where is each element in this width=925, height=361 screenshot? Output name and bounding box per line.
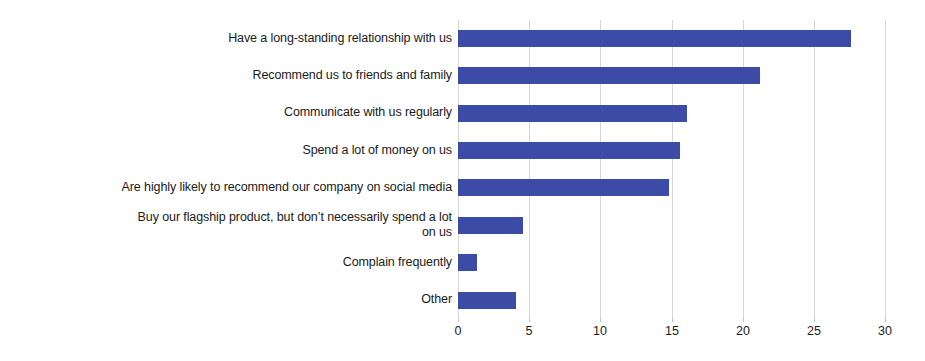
horizontal-bar-chart: Have a long-standing relationship with u…	[0, 0, 925, 361]
category-label: Communicate with us regularly	[284, 105, 452, 120]
bar	[458, 179, 669, 196]
x-tick-mark	[743, 318, 744, 322]
bar	[458, 105, 687, 122]
gridline-0	[458, 20, 459, 318]
x-tick-label: 30	[878, 324, 892, 338]
category-label: Other	[421, 292, 452, 307]
gridline-15	[672, 20, 673, 318]
category-label: Buy our flagship product, but don’t nece…	[138, 210, 452, 240]
bar	[458, 67, 760, 84]
x-tick-mark	[529, 318, 530, 322]
bar	[458, 217, 523, 234]
category-label: Spend a lot of money on us	[302, 143, 452, 158]
x-tick-mark	[458, 318, 459, 322]
x-tick-mark	[672, 318, 673, 322]
x-tick-mark	[814, 318, 815, 322]
category-label: Have a long-standing relationship with u…	[228, 31, 452, 46]
x-tick-label: 5	[526, 324, 533, 338]
bar	[458, 142, 680, 159]
gridline-10	[600, 20, 601, 318]
x-tick-label: 0	[455, 324, 462, 338]
category-label: Recommend us to friends and family	[253, 68, 452, 83]
bar	[458, 30, 851, 47]
x-tick-label: 25	[807, 324, 821, 338]
gridline-20	[743, 20, 744, 318]
gridline-25	[814, 20, 815, 318]
gridline-5	[529, 20, 530, 318]
category-label: Are highly likely to recommend our compa…	[122, 180, 452, 195]
category-label: Complain frequently	[343, 255, 452, 270]
plot-area	[458, 20, 885, 318]
x-tick-mark	[885, 318, 886, 322]
x-tick-label: 15	[665, 324, 679, 338]
bar	[458, 292, 516, 309]
bar	[458, 254, 477, 271]
x-tick-label: 20	[736, 324, 750, 338]
x-tick-mark	[600, 318, 601, 322]
x-tick-label: 10	[593, 324, 607, 338]
gridline-30	[885, 20, 886, 318]
